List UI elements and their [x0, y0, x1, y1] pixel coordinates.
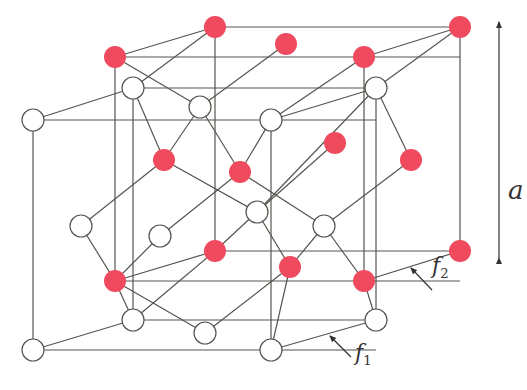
open-atom — [260, 339, 282, 361]
bond-line — [133, 88, 164, 160]
filled-atom — [324, 132, 346, 154]
filled-atom — [204, 240, 226, 262]
annotation-arrows — [330, 22, 499, 357]
open-atom — [22, 109, 44, 131]
f1-label: f1 — [355, 340, 372, 368]
open-atom — [70, 215, 92, 237]
bond-line — [115, 27, 215, 57]
bond-line — [376, 88, 411, 160]
bond-lines — [33, 27, 460, 350]
filled-atom — [449, 16, 471, 38]
filled-atom — [400, 149, 422, 171]
open-atom — [122, 77, 144, 99]
filled-atom — [275, 33, 297, 55]
open-atom — [313, 215, 335, 237]
bond-line — [33, 320, 133, 350]
f2-label: f2 — [432, 253, 449, 281]
open-atom — [365, 309, 387, 331]
open-atom — [194, 322, 216, 344]
open-atom — [189, 96, 211, 118]
filled-atom — [279, 256, 301, 278]
bond-line — [33, 88, 133, 120]
bond-line — [324, 160, 411, 226]
crystal-structure-diagram — [0, 0, 527, 390]
open-atom — [246, 201, 268, 223]
filled-atom — [353, 46, 375, 68]
f1-pointer — [330, 336, 351, 357]
open-atom — [149, 225, 171, 247]
filled-atom — [104, 46, 126, 68]
bond-line — [81, 160, 164, 226]
f2-pointer — [411, 268, 432, 290]
open-atom — [260, 109, 282, 131]
filled-atom — [353, 270, 375, 292]
open-atom — [22, 339, 44, 361]
bond-line — [200, 44, 286, 107]
bond-line — [160, 172, 240, 236]
filled-atom — [449, 240, 471, 262]
bond-line — [257, 143, 335, 212]
bond-line — [133, 251, 215, 320]
open-atom — [122, 309, 144, 331]
bond-line — [364, 27, 460, 57]
open-atom — [365, 77, 387, 99]
filled-atom — [153, 149, 175, 171]
filled-atom — [104, 270, 126, 292]
filled-atom — [229, 161, 251, 183]
lattice-constant-label: a — [508, 175, 524, 205]
filled-atom — [204, 16, 226, 38]
